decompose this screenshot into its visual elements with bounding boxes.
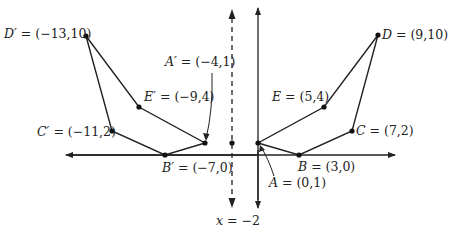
- label-C-prime: C′ = (−11,2): [37, 124, 116, 139]
- label-D: D = (9,10): [381, 27, 448, 42]
- label-E: E = (5,4): [271, 89, 329, 104]
- leader-A-prime-head: [203, 133, 210, 141]
- label-A-prime: A′ = (−4,1): [164, 54, 235, 69]
- leader-A: [261, 147, 274, 176]
- point-D: [375, 32, 380, 37]
- midpoint-dot: [229, 140, 234, 145]
- point-B: [296, 152, 301, 157]
- point-E: [321, 104, 326, 109]
- point-B-prime: [162, 152, 167, 157]
- leader-A-prime: [206, 73, 212, 139]
- point-C: [349, 128, 354, 133]
- leader-A-head: [259, 145, 265, 152]
- label-B-prime: B′ = (−7,0): [161, 160, 233, 175]
- label-C: C = (7,2): [356, 123, 414, 138]
- label-B: B = (3,0): [297, 159, 355, 174]
- label-D-prime: D′ = (−13,10): [3, 26, 91, 41]
- point-A: [255, 140, 260, 145]
- label-E-prime: E′ = (−9,4): [143, 89, 215, 104]
- reflection-line-arrow-up: [229, 9, 236, 19]
- coordinate-diagram: D′ = (−13,10) A′ = (−4,1) E′ = (−9,4) C′…: [0, 0, 451, 237]
- point-E-prime: [136, 104, 141, 109]
- label-A: A = (0,1): [268, 175, 326, 190]
- label-reflection-line: x = −2: [216, 213, 260, 228]
- point-A-prime: [202, 140, 207, 145]
- reflection-line-arrow-down: [229, 198, 236, 208]
